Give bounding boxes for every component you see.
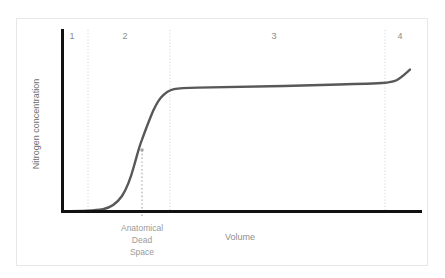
y-axis-label: Nitrogen concentration [31,79,41,170]
phase-separator-lines [88,30,385,212]
x-axis-label: Volume [225,232,255,242]
phase-label-2: 2 [122,32,127,41]
dead-space-line-1: Anatomical [121,222,163,234]
dead-space-line-2: Dead [121,234,163,246]
phase-label-3: 3 [271,32,276,41]
phase-label-1: 1 [69,32,74,41]
phase-label-4: 4 [397,32,402,41]
dead-space-line-3: Space [121,246,163,258]
dead-space-marker-point [140,148,144,152]
nitrogen-washout-curve [64,70,410,212]
plot-canvas [0,0,445,278]
dead-space-annotation: Anatomical Dead Space [121,222,163,258]
figure-root: 1 2 3 4 Nitrogen concentration Volume An… [0,0,445,278]
